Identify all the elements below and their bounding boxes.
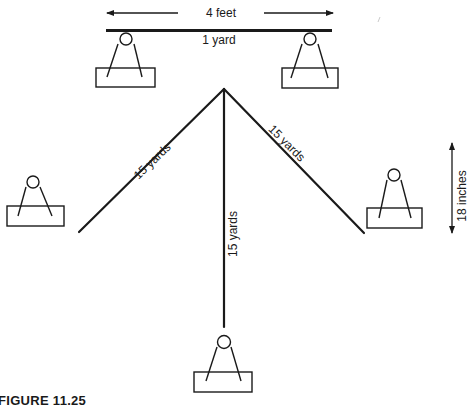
right-stand bbox=[367, 169, 422, 228]
side-dimension: 18 inches bbox=[452, 143, 469, 233]
center-line-label: 15 yards bbox=[226, 211, 240, 257]
top-right-stand bbox=[282, 33, 338, 88]
stand-base bbox=[367, 208, 422, 228]
stand-ring bbox=[27, 176, 39, 188]
stand-ring bbox=[388, 169, 400, 181]
crossbar-label: 1 yard bbox=[202, 33, 235, 47]
stand-base bbox=[282, 68, 338, 88]
crossbar: 1 yard bbox=[106, 31, 332, 48]
left-line-label: 15 yards bbox=[131, 140, 174, 182]
stand-base bbox=[7, 206, 64, 226]
left-stand bbox=[7, 176, 64, 226]
stand-ring bbox=[304, 33, 316, 45]
top-dimension-label: 4 feet bbox=[206, 6, 237, 20]
stand-base bbox=[194, 372, 252, 392]
bottom-stand bbox=[194, 336, 252, 393]
scan-artifact bbox=[378, 17, 380, 22]
figure-caption: FIGURE 11.25 bbox=[0, 393, 86, 408]
top-left-stand bbox=[96, 33, 155, 87]
distance-lines bbox=[79, 89, 364, 327]
stand-ring bbox=[218, 336, 231, 349]
stand-base bbox=[96, 68, 155, 87]
right-line-label: 15 yards bbox=[266, 122, 308, 164]
stand-ring bbox=[120, 33, 132, 45]
right-distance-line bbox=[224, 89, 364, 233]
side-dimension-label: 18 inches bbox=[455, 170, 469, 221]
top-dimension: 4 feet bbox=[107, 6, 333, 20]
